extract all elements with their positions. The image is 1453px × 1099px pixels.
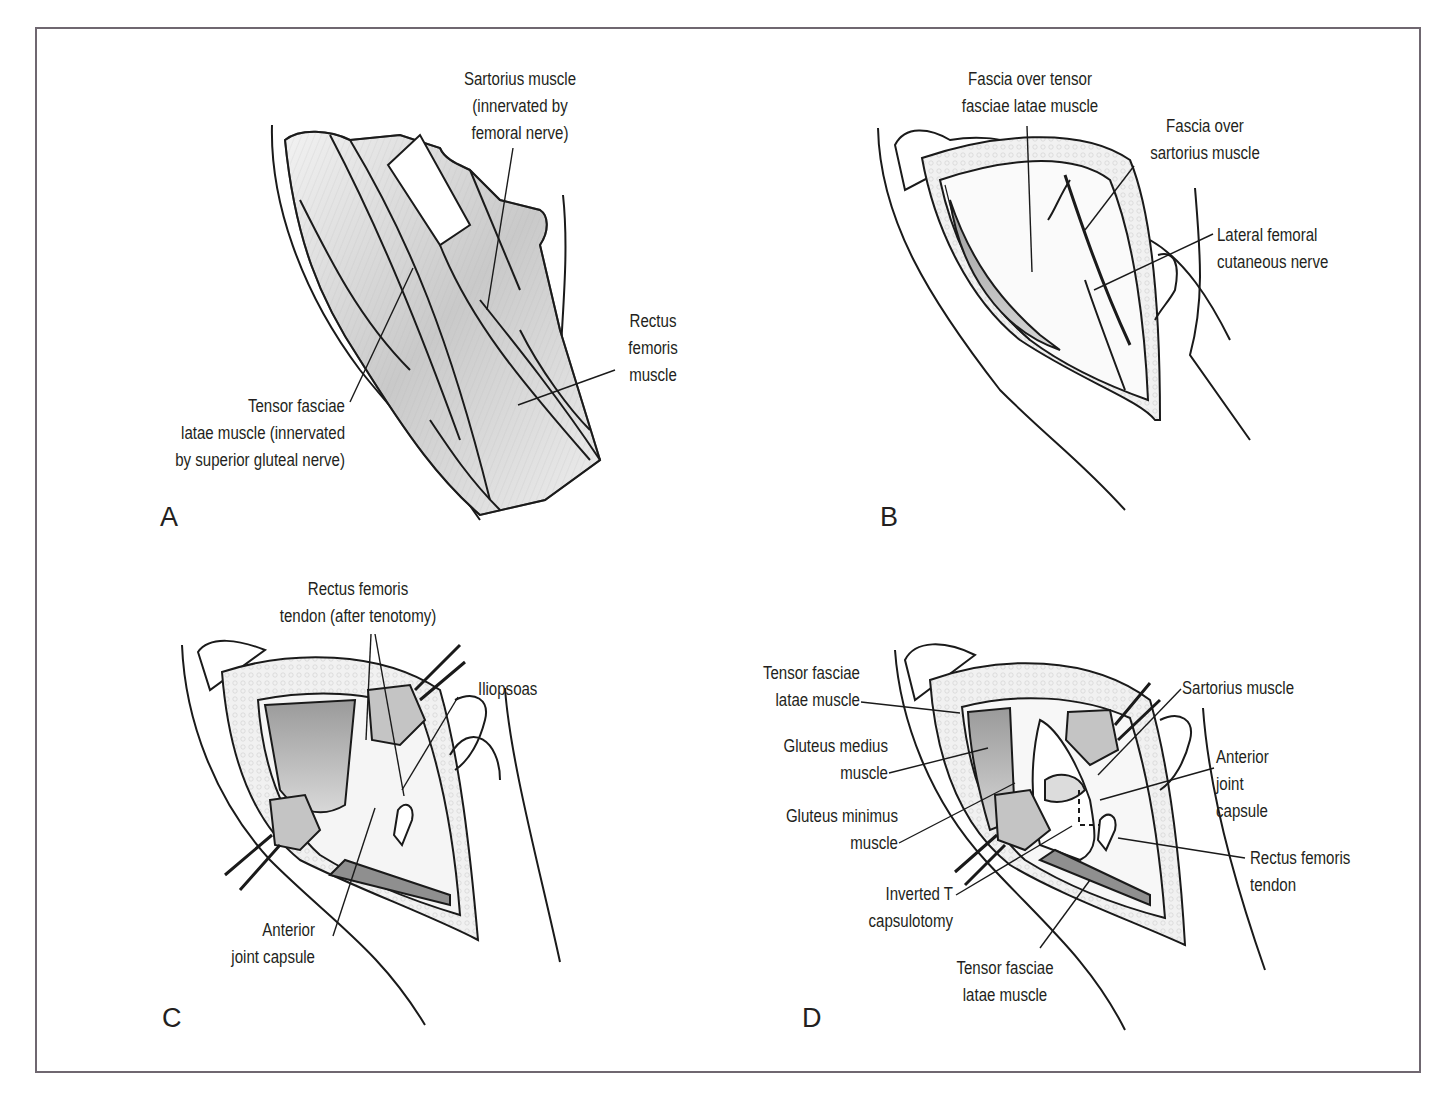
label-inverted-t-capsulotomy-d: Inverted T capsulotomy [839, 881, 953, 935]
label-fascia-over-tfl-b: Fascia over tensor fasciae latae muscle [961, 66, 1099, 120]
panel-label-c: C [162, 1003, 182, 1034]
label-rectus-femoris-tendon-c: Rectus femoris tendon (after tenotomy) [272, 576, 444, 630]
label-fascia-over-sartorius-b: Fascia over sartorius muscle [1141, 113, 1270, 167]
label-tensor-fasciae-latae-d-lower: Tensor fasciae latae muscle [945, 955, 1065, 1009]
label-gluteus-medius-d: Gluteus medius muscle [761, 733, 888, 787]
panel-label-b: B [880, 502, 898, 533]
label-rectus-femoris-tendon-d: Rectus femoris tendon [1250, 845, 1370, 899]
label-sartorius-muscle-a: Sartorius muscle (innervated by femoral … [451, 66, 589, 147]
panel-label-d: D [802, 1003, 822, 1034]
label-gluteus-minimus-d: Gluteus minimus muscle [762, 803, 898, 857]
label-anterior-joint-capsule-d: Anterior joint capsule [1216, 744, 1293, 825]
panel-b-drawing [878, 128, 1250, 510]
label-lateral-femoral-cutaneous-nerve-b: Lateral femoral cutaneous nerve [1217, 222, 1355, 276]
label-tensor-fasciae-latae-d-upper: Tensor fasciae latae muscle [735, 660, 860, 714]
label-iliopsoas-c: Iliopsoas [478, 676, 564, 703]
label-anterior-joint-capsule-c: Anterior joint capsule [220, 917, 315, 971]
label-tensor-fasciae-latae-a: Tensor fasciae latae muscle (innervated … [134, 393, 345, 474]
label-sartorius-muscle-d: Sartorius muscle [1182, 675, 1311, 702]
label-rectus-femoris-muscle-a: Rectus femoris muscle [614, 308, 691, 389]
panel-label-a: A [160, 502, 178, 533]
